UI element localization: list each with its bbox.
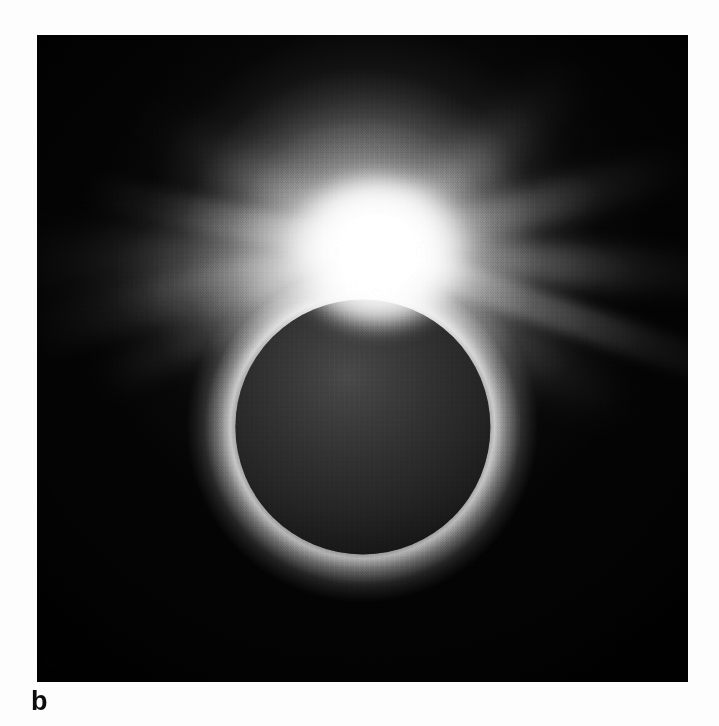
figure-root: b bbox=[0, 0, 719, 726]
eclipse-photograph bbox=[37, 35, 688, 682]
lunar-silhouette-disk bbox=[235, 300, 490, 555]
panel-label: b bbox=[31, 688, 48, 715]
diamond-ring-core bbox=[339, 217, 417, 282]
